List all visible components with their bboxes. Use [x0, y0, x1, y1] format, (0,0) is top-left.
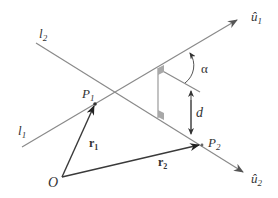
parallel-l2-copy [159, 69, 200, 92]
label-d: d [196, 105, 204, 120]
label-origin: O [48, 175, 58, 190]
label-l2: l2 [39, 26, 48, 43]
label-p1: P1 [81, 86, 94, 103]
point-p2-dot [201, 144, 204, 147]
line-l1 [22, 20, 237, 147]
right-angle-marker-bottom [158, 110, 164, 120]
label-l1: l1 [18, 123, 26, 140]
label-alpha: α [201, 61, 208, 76]
line-l2 [36, 43, 243, 172]
label-u1: û1 [251, 9, 262, 26]
label-p2: P2 [207, 135, 221, 152]
label-r1: r1 [89, 136, 98, 152]
vector-r2 [62, 145, 199, 177]
label-u2: û2 [251, 171, 263, 188]
skew-lines-diagram: l2 l1 û1 û2 P1 P2 O r1 r2 α d [0, 0, 278, 198]
label-r2: r2 [158, 155, 167, 171]
angle-arc [185, 53, 194, 83]
